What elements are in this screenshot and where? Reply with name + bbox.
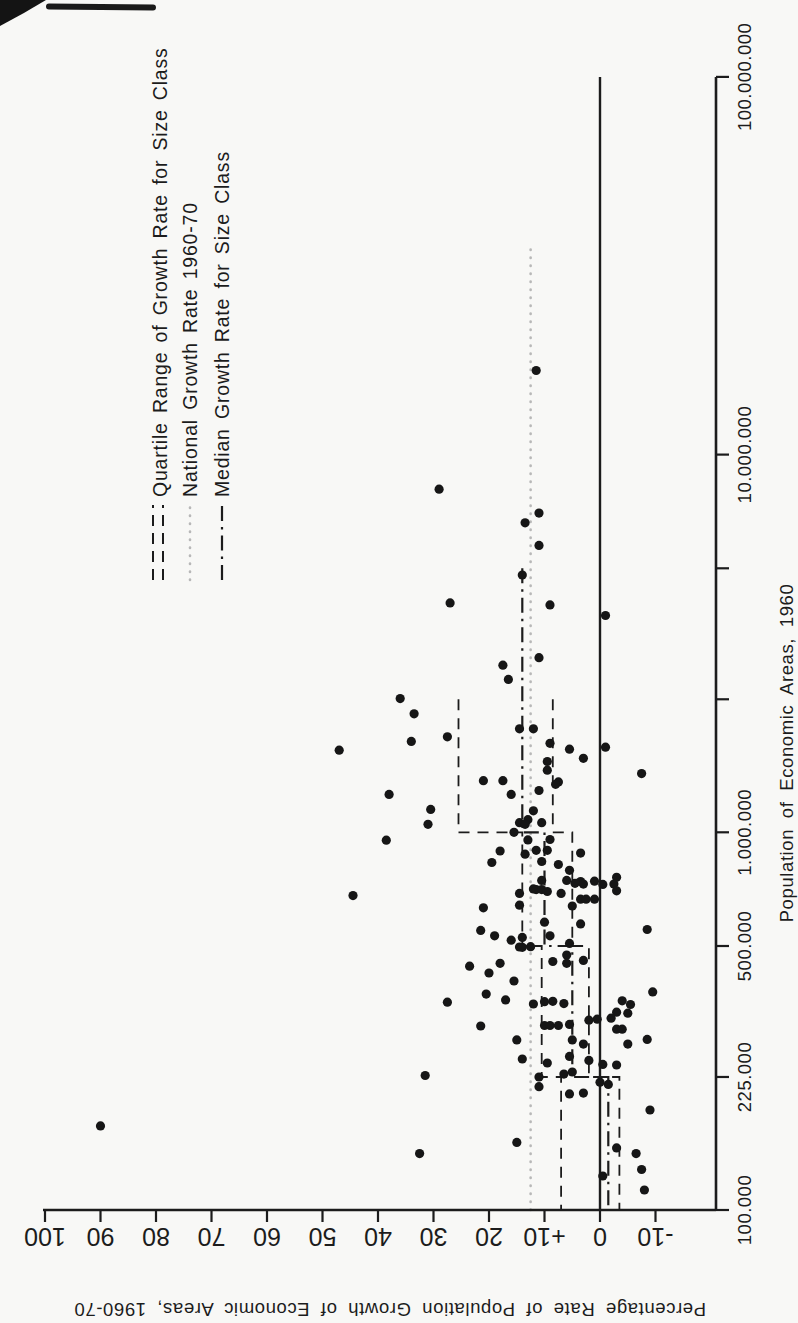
scatter-point: [559, 999, 568, 1008]
scan-artifact-strip: [46, 3, 156, 10]
scatter-point: [415, 1149, 424, 1158]
scatter-point: [543, 887, 552, 896]
scatter-point: [582, 895, 591, 904]
scatter-point: [507, 790, 516, 799]
scatter-point: [565, 939, 574, 948]
scatter-point: [498, 776, 507, 785]
scatter-point: [426, 805, 435, 814]
scatter-point: [551, 780, 560, 789]
scatter-point: [590, 877, 599, 886]
scatter-point: [534, 541, 543, 550]
scatter-point: [579, 880, 588, 889]
scatter-point: [565, 866, 574, 875]
scatter-point: [643, 1035, 652, 1044]
scatter-point: [518, 933, 527, 942]
scatter-point: [509, 976, 518, 985]
scatter-point: [543, 766, 552, 775]
scatter-point: [559, 1070, 568, 1079]
scatter-point: [623, 1040, 632, 1049]
scatter-point: [479, 903, 488, 912]
scatter-point: [507, 936, 516, 945]
scatter-point: [446, 598, 455, 607]
scatter-point: [407, 737, 416, 746]
scatter-point: [570, 879, 579, 888]
scatter-point: [537, 857, 546, 866]
scatter-point: [540, 997, 549, 1006]
scatter-point: [504, 675, 513, 684]
y-tick-label: 100: [24, 1223, 66, 1251]
scatter-point: [534, 653, 543, 662]
scatter-point: [548, 957, 557, 966]
scatter-point: [423, 820, 432, 829]
x-tick-label: 100.000.000: [734, 23, 755, 131]
scatter-point: [601, 743, 610, 752]
scatter-point: [590, 895, 599, 904]
scatter-point: [598, 1060, 607, 1069]
scatter-point: [623, 1009, 632, 1018]
scatter-point: [618, 996, 627, 1005]
scatter-point: [545, 931, 554, 940]
scatter-point: [543, 846, 552, 855]
scatter-point: [540, 918, 549, 927]
scatter-point: [476, 926, 485, 935]
scatter-point: [543, 1058, 552, 1067]
legend: Quartile Range of Growth Rate for Size C…: [149, 47, 233, 580]
scatter-point: [410, 709, 419, 718]
scatter-point: [521, 518, 530, 527]
y-axis-title: Percentage Rate of Population Growth of …: [74, 1299, 706, 1320]
x-tick-label: 225.000: [734, 1042, 755, 1112]
scatter-point: [618, 1025, 627, 1034]
scatter-point: [545, 600, 554, 609]
scatter-point: [515, 724, 524, 733]
scatter-point: [568, 1067, 577, 1076]
y-tick-label: 40: [364, 1223, 392, 1251]
scatter-point: [496, 846, 505, 855]
scatter-point: [562, 951, 571, 960]
scatter-point: [518, 1054, 527, 1063]
x-tick-label: 100.000: [734, 1175, 755, 1245]
population-growth-scatter-chart: Quartile Range of Growth Rate for Size C…: [0, 0, 798, 1323]
rotated-chart-container: Quartile Range of Growth Rate for Size C…: [0, 0, 798, 1323]
scatter-point: [523, 835, 532, 844]
y-tick-label: -10: [637, 1223, 673, 1251]
scatter-point: [645, 1105, 654, 1114]
scatter-point: [626, 1000, 635, 1009]
scatter-point: [593, 1015, 602, 1024]
scatter-point: [529, 999, 538, 1008]
scatter-point: [568, 901, 577, 910]
scatter-point: [565, 1089, 574, 1098]
scatter-point: [529, 806, 538, 815]
scatter-point: [490, 931, 499, 940]
scatter-point: [518, 943, 527, 952]
legend-label-median-rate: Median Growth Rate for Size Class: [211, 151, 233, 497]
scatter-point: [348, 891, 357, 900]
scatter-point: [612, 1060, 621, 1069]
scatter-point: [385, 790, 394, 799]
y-tick-label: 50: [309, 1223, 337, 1251]
scatter-point: [534, 1082, 543, 1091]
scatter-point: [637, 1165, 646, 1174]
scatter-point: [598, 1171, 607, 1180]
scatter-point: [557, 889, 566, 898]
y-tick-label: 70: [198, 1223, 226, 1251]
scatter-point: [526, 942, 535, 951]
scatter-point: [509, 828, 518, 837]
legend-label-quartile-range: Quartile Range of Growth Rate for Size C…: [149, 47, 171, 497]
scatter-point: [532, 366, 541, 375]
scatter-point: [512, 1138, 521, 1147]
scatter-point: [632, 1149, 641, 1158]
scatter-point: [554, 860, 563, 869]
scatter-point: [443, 732, 452, 741]
scatter-point: [501, 995, 510, 1004]
x-axis-title: Population of Economic Areas, 1960: [776, 584, 797, 923]
scatter-point: [335, 746, 344, 755]
scatter-point: [612, 886, 621, 895]
x-tick-label: 1.000.000: [734, 789, 755, 876]
y-tick-label: 60: [253, 1223, 281, 1251]
scatter-point: [537, 818, 546, 827]
y-tick-label: +10: [523, 1223, 565, 1251]
scatter-point: [518, 570, 527, 579]
scatter-point: [521, 820, 530, 829]
scanned-figure-page: Quartile Range of Growth Rate for Size C…: [0, 0, 798, 1323]
scatter-point: [482, 990, 491, 999]
